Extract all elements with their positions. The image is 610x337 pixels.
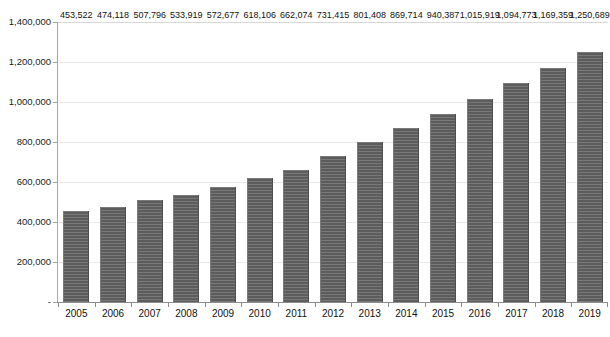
bar-group: 572,677: [205, 22, 242, 302]
bar[interactable]: 1,015,919: [467, 99, 493, 302]
y-tick-mark: [53, 262, 57, 263]
x-tick-label: 2018: [535, 309, 572, 319]
x-tick-label: 2010: [241, 309, 278, 319]
x-tick-label: 2005: [58, 309, 95, 319]
x-tick-mark: [607, 303, 608, 307]
x-tick-label: 2006: [95, 309, 132, 319]
bar[interactable]: 869,714: [393, 128, 419, 302]
x-tick-label: 2013: [351, 309, 388, 319]
bar-series: 453,522474,118507,796533,919572,677618,1…: [58, 22, 608, 302]
bar[interactable]: 801,408: [357, 142, 383, 302]
bar-value-label: 618,106: [243, 11, 276, 20]
x-axis-labels: 2005200620072008200920102011201220132014…: [58, 309, 608, 319]
x-tick-label: 2017: [498, 309, 535, 319]
y-tick-mark: [53, 22, 57, 23]
x-tick-mark: [315, 303, 316, 307]
bar-group: 1,015,919: [461, 22, 498, 302]
bar-value-label: 453,522: [60, 11, 93, 20]
bar[interactable]: 507,796: [137, 200, 163, 302]
x-tick-label: 2009: [205, 309, 242, 319]
bar[interactable]: 1,094,773: [503, 83, 529, 302]
bar-value-label: 940,387: [427, 11, 460, 20]
x-tick-label: 2008: [168, 309, 205, 319]
x-tick-label: 2015: [425, 309, 462, 319]
bar-group: 453,522: [58, 22, 95, 302]
x-tick-mark: [131, 303, 132, 307]
x-tick-mark: [461, 303, 462, 307]
x-tick-mark: [425, 303, 426, 307]
bar[interactable]: 731,415: [320, 156, 346, 302]
x-tick-mark: [351, 303, 352, 307]
bar-value-label: 801,408: [353, 11, 386, 20]
y-tick-label: 400,000: [1, 217, 51, 227]
x-tick-label: 2016: [461, 309, 498, 319]
bar-group: 1,250,689: [571, 22, 608, 302]
y-tick-mark: [53, 142, 57, 143]
y-tick-mark: [53, 62, 57, 63]
y-tick-mark: [53, 222, 57, 223]
bar-group: 533,919: [168, 22, 205, 302]
x-tick-label: 2012: [315, 309, 352, 319]
y-tick-mark: [53, 302, 57, 303]
bar-chart: 1,400,000 1,200,000 1,000,000 800,000 60…: [0, 0, 610, 337]
bar[interactable]: 453,522: [63, 211, 89, 302]
bar-value-label: 731,415: [317, 11, 350, 20]
x-tick-mark: [498, 303, 499, 307]
bar[interactable]: 1,250,689: [577, 52, 603, 302]
bar-group: 1,094,773: [498, 22, 535, 302]
x-tick-label: 2011: [278, 309, 315, 319]
bar-value-label: 1,250,689: [570, 11, 610, 20]
bar-value-label: 533,919: [170, 11, 203, 20]
bar-group: 507,796: [131, 22, 168, 302]
bar-group: 731,415: [315, 22, 352, 302]
bar[interactable]: 940,387: [430, 114, 456, 302]
bar-group: 940,387: [425, 22, 462, 302]
figure-caption: [0, 328, 610, 337]
y-tick-mark: [53, 102, 57, 103]
x-tick-mark: [571, 303, 572, 307]
bar-value-label: 507,796: [133, 11, 166, 20]
bar-group: 801,408: [351, 22, 388, 302]
bar-group: 474,118: [95, 22, 132, 302]
y-tick-label: 1,200,000: [1, 57, 51, 67]
y-tick-label: -: [1, 297, 51, 307]
x-tick-mark: [241, 303, 242, 307]
x-tick-mark: [168, 303, 169, 307]
bar-value-label: 1,169,359: [533, 11, 573, 20]
bar-group: 869,714: [388, 22, 425, 302]
y-tick-label: 600,000: [1, 177, 51, 187]
bar-value-label: 869,714: [390, 11, 423, 20]
x-tick-mark: [95, 303, 96, 307]
x-tick-label: 2014: [388, 309, 425, 319]
bar[interactable]: 533,919: [173, 195, 199, 302]
x-tick-label: 2019: [571, 309, 608, 319]
bar-group: 618,106: [241, 22, 278, 302]
y-tick-label: 800,000: [1, 137, 51, 147]
bar-value-label: 474,118: [97, 11, 129, 20]
bar[interactable]: 618,106: [247, 178, 273, 302]
x-tick-mark: [278, 303, 279, 307]
x-tick-mark: [58, 303, 59, 307]
y-tick-mark: [53, 182, 57, 183]
bar[interactable]: 662,074: [283, 170, 309, 302]
x-tick-mark: [205, 303, 206, 307]
bar-group: 1,169,359: [535, 22, 572, 302]
bar-group: 662,074: [278, 22, 315, 302]
x-tick-mark: [535, 303, 536, 307]
x-tick-label: 2007: [131, 309, 168, 319]
y-axis-labels: 1,400,000 1,200,000 1,000,000 800,000 60…: [0, 0, 51, 337]
y-tick-label: 200,000: [1, 257, 51, 267]
bar-value-label: 572,677: [207, 11, 240, 20]
x-tick-mark: [388, 303, 389, 307]
bar[interactable]: 1,169,359: [540, 68, 566, 302]
y-tick-label: 1,400,000: [1, 17, 51, 27]
bar-value-label: 1,015,919: [460, 11, 500, 20]
y-tick-label: 1,000,000: [1, 97, 51, 107]
bar-value-label: 662,074: [280, 11, 313, 20]
bar[interactable]: 474,118: [100, 207, 126, 302]
bar[interactable]: 572,677: [210, 187, 236, 302]
bar-value-label: 1,094,773: [496, 11, 536, 20]
